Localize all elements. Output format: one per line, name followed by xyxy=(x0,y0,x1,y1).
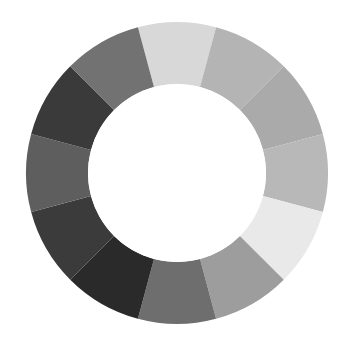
donut-center-hole xyxy=(88,84,266,262)
donut-chart xyxy=(0,0,354,348)
donut-chart-canvas xyxy=(0,0,354,348)
